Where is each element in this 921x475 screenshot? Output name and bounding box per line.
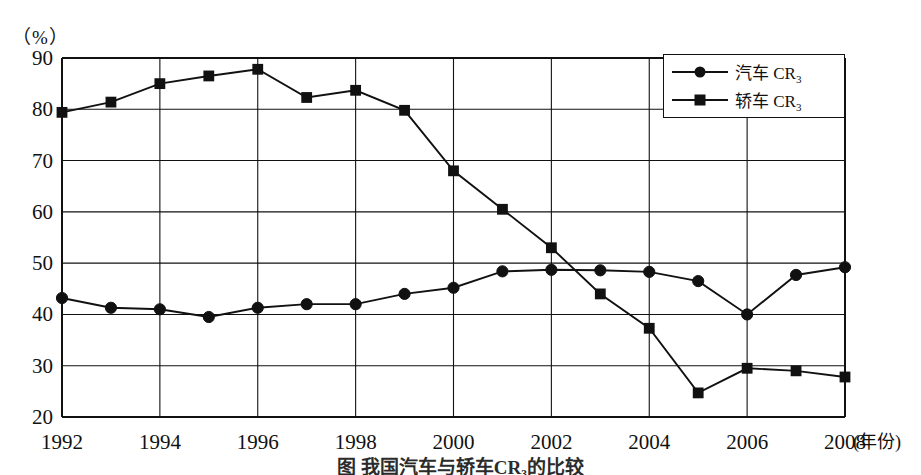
data-point-square	[350, 85, 361, 96]
data-point-square	[154, 78, 165, 89]
data-point-circle	[56, 292, 67, 303]
circle-marker-icon	[695, 67, 706, 78]
data-point-square	[301, 92, 312, 103]
data-point-square	[106, 97, 117, 108]
data-point-square	[399, 105, 410, 116]
data-point-circle	[301, 299, 312, 310]
y-axis-tick-label: 80	[32, 97, 53, 121]
data-point-circle	[154, 304, 165, 315]
y-axis-tick-label: 90	[32, 46, 53, 70]
data-point-circle	[350, 299, 361, 310]
data-point-circle	[790, 269, 801, 280]
x-axis-tick-label: 2000	[433, 430, 475, 454]
x-axis-tick-label: 1998	[335, 430, 377, 454]
data-point-square	[693, 388, 704, 399]
data-point-circle	[742, 309, 753, 320]
data-point-circle	[839, 262, 850, 273]
data-point-square	[595, 289, 606, 300]
data-point-circle	[644, 266, 655, 277]
data-point-square	[840, 372, 851, 383]
data-point-circle	[203, 311, 214, 322]
x-axis-unit-label: (年份)	[853, 432, 901, 453]
data-point-square	[448, 165, 459, 176]
data-point-circle	[105, 302, 116, 313]
data-point-circle	[252, 302, 263, 313]
y-axis-tick-label: 40	[32, 302, 53, 326]
data-point-square	[791, 365, 802, 376]
data-point-circle	[693, 275, 704, 286]
legend-line-sample	[672, 71, 728, 73]
chart-page: （%） 203040506070809019921994199619982000…	[0, 0, 921, 475]
data-point-square	[742, 363, 753, 374]
y-axis-tick-label: 70	[32, 149, 53, 173]
data-point-square	[57, 107, 68, 118]
chart-legend: 汽车 CR3 轿车 CR3	[663, 54, 845, 118]
x-axis-tick-label: 1994	[139, 430, 182, 454]
x-axis-tick-label: 2004	[628, 430, 671, 454]
y-axis-tick-label: 20	[32, 405, 53, 429]
x-axis-tick-label: 1992	[41, 430, 83, 454]
data-point-square	[203, 71, 214, 82]
data-point-circle	[448, 282, 459, 293]
y-axis-tick-label: 60	[32, 200, 53, 224]
data-point-circle	[497, 266, 508, 277]
data-point-square	[497, 204, 508, 215]
x-axis-tick-label: 1996	[237, 430, 279, 454]
data-point-circle	[546, 264, 557, 275]
data-point-circle	[595, 265, 606, 276]
data-point-square	[644, 323, 655, 334]
legend-item-qiche: 汽车 CR3	[672, 59, 836, 85]
x-axis-tick-label: 2006	[726, 430, 768, 454]
data-point-circle	[399, 288, 410, 299]
legend-label-qiche: 汽车 CR3	[735, 59, 801, 85]
legend-item-jiaoche: 轿车 CR3	[672, 87, 836, 113]
y-axis-tick-label: 30	[32, 354, 53, 378]
legend-line-sample	[672, 99, 728, 101]
legend-label-jiaoche: 轿车 CR3	[735, 87, 801, 113]
y-axis-tick-label: 50	[32, 251, 53, 275]
figure-caption: 图 我国汽车与轿车CR₃的比较	[0, 455, 921, 475]
data-point-square	[546, 242, 557, 253]
data-point-square	[252, 64, 263, 75]
square-marker-icon	[695, 95, 706, 106]
x-axis-tick-label: 2002	[530, 430, 572, 454]
